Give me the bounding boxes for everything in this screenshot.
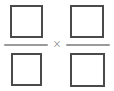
multiplication-sign-icon: ×: [49, 36, 65, 54]
right-fraction-bar: [66, 44, 110, 46]
right-fraction-denominator-box[interactable]: [70, 53, 105, 87]
fraction-multiplication-expression: ×: [0, 0, 114, 91]
right-fraction-numerator-box[interactable]: [70, 5, 104, 38]
left-fraction-bar: [4, 44, 48, 46]
left-fraction-numerator-box[interactable]: [10, 5, 43, 38]
left-fraction-denominator-box[interactable]: [11, 53, 42, 86]
